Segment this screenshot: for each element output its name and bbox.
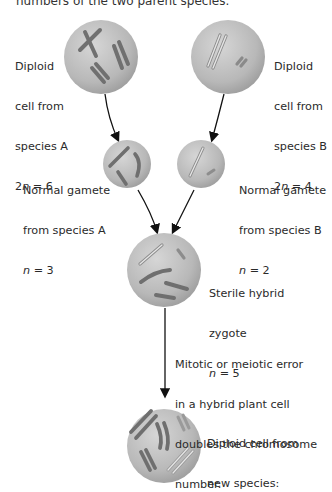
- cell-gamete-a: [103, 140, 151, 188]
- ploidy-gamete-a: n = 3: [23, 264, 110, 277]
- label-new-species: Diploid cell from new species: viable, f…: [207, 410, 320, 492]
- arrow-b-to-gamete: [212, 94, 224, 140]
- arrow-gamete-b-to-zygote: [173, 190, 194, 232]
- arrow-a-to-gamete: [105, 94, 118, 140]
- label-gamete-a: Normal gamete from species A n = 3: [23, 157, 110, 291]
- cell-zygote: [127, 233, 201, 307]
- cell-parent-a: [64, 20, 138, 94]
- cell-parent-b: [191, 20, 265, 94]
- cell-gamete-b: [177, 140, 225, 188]
- arrow-gamete-a-to-zygote: [138, 190, 157, 232]
